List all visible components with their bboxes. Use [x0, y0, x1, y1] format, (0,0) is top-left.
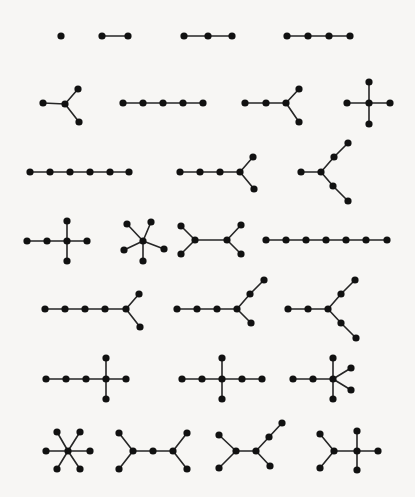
graph-node	[177, 250, 184, 257]
graph-node	[347, 364, 354, 371]
graph-node	[316, 464, 323, 471]
graph-node	[302, 236, 309, 243]
graph-node	[86, 168, 93, 175]
graph-node	[39, 99, 46, 106]
graph-node	[353, 427, 360, 434]
tree-graph-g22	[42, 428, 93, 472]
graph-node	[120, 246, 127, 253]
tree-graph-g11	[297, 139, 351, 204]
tree-graph-g8	[343, 78, 393, 127]
graph-node	[344, 197, 351, 204]
graph-node	[284, 305, 291, 312]
graph-node	[136, 323, 143, 330]
graph-node	[247, 319, 254, 326]
graph-node	[386, 99, 393, 106]
graph-node	[169, 447, 176, 454]
graph-node	[62, 375, 69, 382]
graph-node	[26, 168, 33, 175]
graph-node	[250, 185, 257, 192]
graph-node	[215, 431, 222, 438]
graph-node	[283, 32, 290, 39]
graph-node	[139, 99, 146, 106]
graph-node	[102, 395, 109, 402]
tree-graph-g20	[178, 354, 265, 402]
tree-graph-g2	[98, 32, 131, 39]
graph-node	[76, 465, 83, 472]
graph-node	[98, 32, 105, 39]
tree-graph-g13	[120, 218, 167, 264]
graph-node	[196, 168, 203, 175]
graph-node	[101, 305, 108, 312]
graph-node	[330, 447, 337, 454]
graph-node	[337, 319, 344, 326]
graph-node	[198, 375, 205, 382]
graph-node	[183, 465, 190, 472]
graph-node	[180, 32, 187, 39]
tree-graph-g5	[39, 85, 82, 125]
graph-node	[365, 120, 372, 127]
graph-node	[252, 447, 259, 454]
tree-graph-g15	[262, 236, 390, 243]
tree-graph-g3	[180, 32, 235, 39]
graph-node	[179, 99, 186, 106]
graph-node	[122, 305, 129, 312]
graph-node	[241, 99, 248, 106]
graph-node	[304, 32, 311, 39]
graph-node	[353, 447, 360, 454]
graph-node	[282, 236, 289, 243]
graph-node	[64, 447, 71, 454]
graph-node	[246, 290, 253, 297]
graph-node	[383, 236, 390, 243]
graph-node	[289, 375, 296, 382]
tree-graph-g12	[23, 217, 90, 264]
graph-node	[42, 447, 49, 454]
graph-node	[295, 85, 302, 92]
graph-node	[183, 429, 190, 436]
graph-node	[266, 462, 273, 469]
tree-graph-g16	[41, 290, 143, 330]
graph-node	[63, 237, 70, 244]
graph-node	[325, 32, 332, 39]
graph-node	[249, 153, 256, 160]
graph-node	[147, 218, 154, 225]
tree-graph-g23	[115, 429, 190, 472]
graph-node	[106, 168, 113, 175]
graph-node	[365, 78, 372, 85]
graph-node	[232, 447, 239, 454]
graph-node	[81, 305, 88, 312]
graph-node	[228, 32, 235, 39]
graph-node	[75, 118, 82, 125]
graph-node	[365, 99, 372, 106]
graph-node	[237, 221, 244, 228]
graph-node	[46, 168, 53, 175]
graph-node	[309, 375, 316, 382]
tree-graph-g25	[316, 427, 381, 473]
graph-node	[135, 290, 142, 297]
tree-graph-g19	[42, 354, 129, 402]
graph-node	[53, 428, 60, 435]
graph-node	[304, 305, 311, 312]
graph-node	[176, 168, 183, 175]
graph-node	[262, 236, 269, 243]
graph-node	[278, 419, 285, 426]
graph-node	[86, 447, 93, 454]
graph-node	[297, 168, 304, 175]
graph-node	[102, 354, 109, 361]
graph-node	[260, 276, 267, 283]
graph-node	[115, 465, 122, 472]
graph-node	[74, 85, 81, 92]
graph-node	[178, 375, 185, 382]
graph-node	[374, 447, 381, 454]
graph-node	[352, 334, 359, 341]
graph-node	[337, 290, 344, 297]
tree-graph-g1	[57, 32, 64, 39]
tree-graph-g4	[283, 32, 353, 39]
graph-node	[199, 99, 206, 106]
graph-node	[63, 217, 70, 224]
graph-node	[342, 236, 349, 243]
graph-node	[353, 466, 360, 473]
graph-node	[258, 375, 265, 382]
tree-graph-g14	[177, 221, 244, 257]
graph-node	[316, 430, 323, 437]
graph-node	[317, 168, 324, 175]
